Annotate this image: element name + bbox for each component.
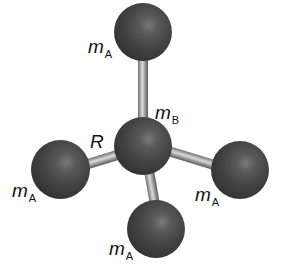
label-main: m xyxy=(88,36,104,57)
label-main: m xyxy=(109,238,125,259)
label-sub: A xyxy=(212,196,219,208)
bond-label: R xyxy=(90,131,104,152)
label-sub: A xyxy=(29,192,36,204)
molecule-diagram: mA mB R mA mA mA xyxy=(0,0,300,270)
atom-top xyxy=(114,3,172,61)
label-atom-top: mA xyxy=(88,37,112,56)
label-sub: A xyxy=(126,250,133,262)
label-main: m xyxy=(155,102,171,123)
atom-right xyxy=(211,141,269,199)
label-atom-left: mA xyxy=(12,181,36,200)
bond-top xyxy=(138,60,148,122)
label-main: m xyxy=(195,184,211,205)
label-atom-right: mA xyxy=(195,185,219,204)
label-atom-bottom: mA xyxy=(109,239,133,258)
label-atom-center: mB xyxy=(155,103,179,122)
label-main: m xyxy=(12,180,28,201)
atom-left xyxy=(31,140,90,199)
label-sub: B xyxy=(172,114,179,126)
atom-bottom xyxy=(127,200,185,258)
atom-center xyxy=(114,117,172,175)
label-bond-length: R xyxy=(90,132,104,151)
label-sub: A xyxy=(105,48,112,60)
